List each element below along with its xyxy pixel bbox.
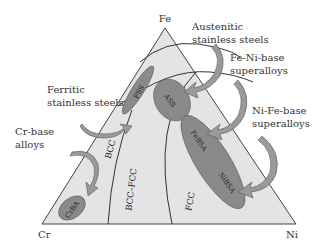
callout-nife-2: superalloys: [252, 118, 310, 129]
vertex-ni: Ni: [286, 229, 298, 240]
callout-ferritic-1: Ferritic: [47, 84, 85, 95]
ternary-diagram: FSS ASS FeBSA NiBSA CrBA BCC BCC–FCC FCC…: [0, 0, 317, 247]
callout-austenitic-2: stainless steels: [192, 34, 269, 45]
callout-feni-2: superalloys: [230, 65, 288, 76]
callout-austenitic-1: Austenitic: [191, 21, 244, 32]
ternary-diagram-svg: FSS ASS FeBSA NiBSA CrBA BCC BCC–FCC FCC…: [0, 0, 317, 247]
callout-ferritic-2: stainless steels: [47, 97, 124, 108]
vertex-cr: Cr: [38, 229, 51, 240]
callout-crbase-2: alloys: [15, 139, 44, 150]
vertex-fe: Fe: [159, 13, 171, 24]
callout-feni-1: Fe-Ni-base: [230, 52, 285, 63]
callout-nife-1: Ni-Fe-base: [252, 105, 307, 116]
callout-crbase-1: Cr-base: [15, 126, 54, 137]
